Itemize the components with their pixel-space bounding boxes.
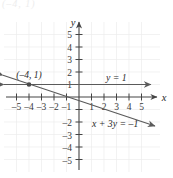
y-axis-label: y [70, 17, 76, 28]
line-label-y-equals-1: y = 1 [105, 72, 127, 83]
x-tick-label: –5 [11, 102, 22, 112]
x-tick-label: 3 [114, 102, 119, 112]
x-tick-label: –2 [48, 102, 59, 112]
y-tick-label: –4 [62, 143, 73, 153]
x-axis-label: x [161, 92, 167, 103]
y-tick-label: –2 [62, 118, 73, 128]
graph-svg: –5 –4 –3 –2 –1 1 2 3 4 5 5 4 3 2 1 –2 –3… [0, 0, 173, 178]
x-tick-labels: –5 –4 –3 –2 –1 1 2 3 4 5 [11, 102, 144, 112]
x-tick-label: 1 [89, 102, 94, 112]
y-tick-label: –3 [62, 131, 73, 141]
coordinate-plane-figure: –5 –4 –3 –2 –1 1 2 3 4 5 5 4 3 2 1 –2 –3… [0, 0, 173, 178]
line-label-x-plus-3y: x + 3y = –1 [91, 118, 138, 129]
x-tick-label: –4 [23, 102, 34, 112]
point-label: (–4, 1) [16, 70, 41, 81]
x-tick-label: 4 [127, 102, 132, 112]
x-tick-label: 2 [102, 102, 107, 112]
y-tick-label: 4 [67, 43, 72, 53]
x-tick-label: –3 [36, 102, 47, 112]
x-tick-label: –1 [61, 102, 72, 112]
y-tick-label: 3 [67, 55, 72, 65]
y-tick-label: –5 [62, 156, 73, 166]
y-tick-label: 2 [67, 68, 72, 78]
point-marker [27, 82, 32, 87]
x-tick-label: 5 [139, 102, 144, 112]
y-tick-label: 5 [67, 30, 72, 40]
